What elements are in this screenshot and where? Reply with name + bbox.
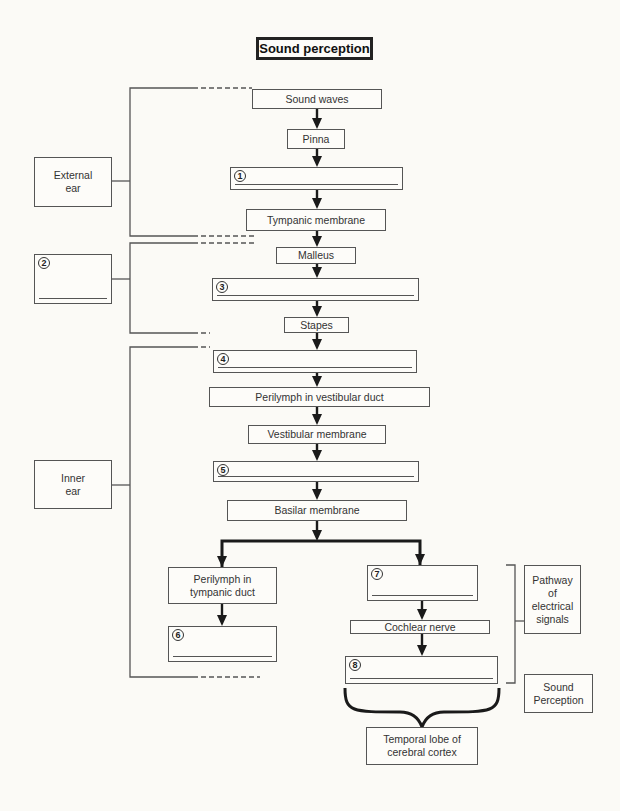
number-3-badge: 3: [216, 281, 228, 293]
basilar-membrane-box: Basilar membrane: [227, 500, 407, 521]
cochlear-nerve-box: Cochlear nerve: [350, 620, 490, 634]
diagram-title: Sound perception: [256, 37, 373, 60]
number-1-badge: 1: [234, 170, 246, 182]
number-4-badge: 4: [217, 353, 229, 365]
answer-line-6[interactable]: [173, 656, 272, 657]
perilymph-tympanic-box: Perilymph in tympanic duct: [168, 567, 277, 604]
blank-box-6[interactable]: 6: [168, 626, 277, 662]
number-5-badge: 5: [217, 464, 229, 476]
answer-line-8[interactable]: [350, 678, 493, 679]
number-8-badge: 8: [349, 659, 361, 671]
answer-line-1[interactable]: [235, 184, 398, 185]
blank-box-7[interactable]: 7: [367, 565, 478, 601]
number-2-badge: 2: [38, 257, 50, 269]
answer-line-2[interactable]: [39, 298, 107, 299]
answer-line-5[interactable]: [218, 476, 414, 477]
answer-line-7[interactable]: [372, 595, 473, 596]
perilymph-vestibular-box: Perilymph in vestibular duct: [209, 387, 430, 407]
answer-line-4[interactable]: [218, 367, 412, 368]
blank-box-1[interactable]: 1: [230, 167, 403, 190]
stapes-box: Stapes: [284, 317, 349, 333]
blank-box-5[interactable]: 5: [213, 461, 419, 482]
number-7-badge: 7: [371, 568, 383, 580]
malleus-box: Malleus: [276, 247, 356, 264]
blank-box-3[interactable]: 3: [212, 278, 419, 301]
sound-waves-box: Sound waves: [252, 89, 382, 109]
number-6-badge: 6: [172, 629, 184, 641]
temporal-lobe-box: Temporal lobe of cerebral cortex: [366, 727, 478, 765]
tympanic-membrane-box: Tympanic membrane: [246, 209, 386, 231]
blank-box-4[interactable]: 4: [213, 350, 417, 373]
external-ear-label: External ear: [34, 157, 112, 207]
inner-ear-label: Inner ear: [34, 460, 112, 509]
pathway-electrical-signals-label: Pathway of electrical signals: [524, 565, 581, 634]
pinna-box: Pinna: [287, 129, 345, 149]
answer-line-3[interactable]: [217, 295, 414, 296]
sound-perception-label: Sound Perception: [524, 674, 593, 713]
blank-box-8[interactable]: 8: [345, 656, 498, 684]
blank-box-2[interactable]: 2: [34, 254, 112, 304]
vestibular-membrane-box: Vestibular membrane: [248, 425, 386, 444]
